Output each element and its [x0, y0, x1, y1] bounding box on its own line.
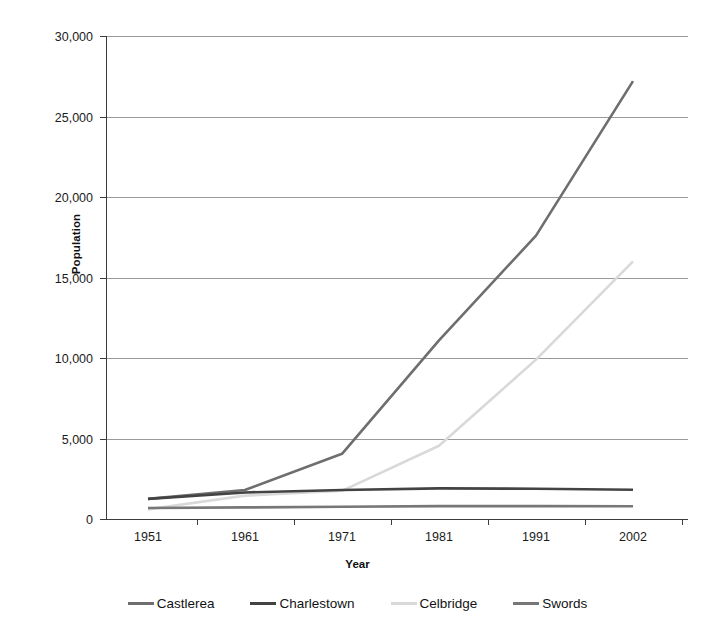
legend-swatch-icon [513, 602, 539, 605]
data-series [148, 81, 633, 509]
series-line-charlestown [148, 488, 633, 498]
y-axis-tick-label: 25,000 [55, 111, 93, 125]
axis-tickmarks [100, 37, 683, 526]
y-axis-tick-label: 0 [86, 513, 93, 527]
population-line-chart: Population 05,00010,00015,00020,00025,00… [0, 0, 715, 636]
x-axis-tick-labels: 195119611971198119912002 [134, 530, 647, 544]
x-axis-title: Year [0, 558, 715, 570]
x-axis-tick-label: 1951 [134, 530, 162, 544]
legend-label: Celbridge [420, 597, 478, 611]
y-axis-tick-label: 10,000 [55, 352, 93, 366]
legend-label: Swords [542, 597, 587, 611]
legend-item-charlestown[interactable]: Charlestown [250, 597, 354, 611]
y-axis-tick-label: 5,000 [62, 433, 93, 447]
legend-label: Charlestown [279, 597, 354, 611]
x-axis-tick-label: 1971 [328, 530, 356, 544]
y-axis-tick-label: 30,000 [55, 30, 93, 44]
y-axis-tick-label: 20,000 [55, 191, 93, 205]
legend-label: Castlerea [157, 597, 215, 611]
gridlines [106, 37, 688, 440]
x-axis-tick-label: 2002 [619, 530, 647, 544]
series-line-castlerea [148, 81, 633, 499]
legend-item-swords[interactable]: Swords [513, 597, 587, 611]
x-axis-tick-label: 1961 [231, 530, 259, 544]
x-axis-tick-label: 1991 [522, 530, 550, 544]
legend-item-castlerea[interactable]: Castlerea [128, 597, 215, 611]
y-axis-tick-label: 15,000 [55, 272, 93, 286]
chart-legend: CastlereaCharlestownCelbridgeSwords [0, 597, 715, 611]
x-axis-tick-label: 1981 [425, 530, 453, 544]
legend-swatch-icon [250, 602, 276, 605]
series-line-celbridge [148, 261, 633, 509]
legend-swatch-icon [128, 602, 154, 605]
series-line-swords [148, 506, 633, 508]
y-axis-tick-labels: 05,00010,00015,00020,00025,00030,000 [55, 30, 93, 527]
legend-item-celbridge[interactable]: Celbridge [391, 597, 478, 611]
legend-swatch-icon [391, 602, 417, 605]
plot-area: 05,00010,00015,00020,00025,00030,000 195… [0, 0, 715, 636]
